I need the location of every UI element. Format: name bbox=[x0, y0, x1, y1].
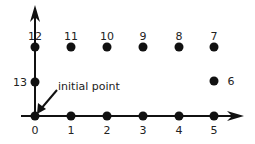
point-11 bbox=[67, 43, 76, 52]
points-group: 012345678910111213 bbox=[13, 30, 235, 137]
point-5 bbox=[210, 112, 219, 121]
point-4 bbox=[175, 112, 184, 121]
point-7 bbox=[210, 43, 219, 52]
point-label: 8 bbox=[176, 30, 183, 43]
point-12 bbox=[31, 43, 40, 52]
point-13 bbox=[31, 78, 40, 87]
point-1 bbox=[67, 112, 76, 121]
point-label: 2 bbox=[104, 124, 111, 137]
diagram-canvas: initial point 012345678910111213 bbox=[0, 0, 255, 144]
point-label: 7 bbox=[211, 30, 218, 43]
point-9 bbox=[139, 43, 148, 52]
point-label: 5 bbox=[211, 124, 218, 137]
point-3 bbox=[139, 112, 148, 121]
point-8 bbox=[175, 43, 184, 52]
point-label: 12 bbox=[28, 30, 42, 43]
point-0 bbox=[31, 112, 40, 121]
point-label: 13 bbox=[13, 76, 27, 89]
point-label: 0 bbox=[32, 124, 39, 137]
point-label: 6 bbox=[228, 75, 235, 88]
point-label: 10 bbox=[100, 30, 114, 43]
point-2 bbox=[103, 112, 112, 121]
point-label: 11 bbox=[64, 30, 78, 43]
point-label: 1 bbox=[68, 124, 75, 137]
point-10 bbox=[103, 43, 112, 52]
point-label: 3 bbox=[140, 124, 147, 137]
point-label: 4 bbox=[176, 124, 183, 137]
point-label: 9 bbox=[140, 30, 147, 43]
initial-point-label: initial point bbox=[58, 80, 120, 93]
point-6 bbox=[210, 77, 219, 86]
